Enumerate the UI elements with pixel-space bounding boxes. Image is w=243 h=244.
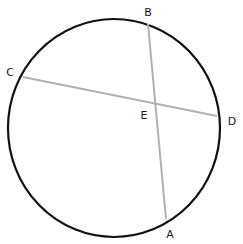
chord-ba	[148, 24, 166, 219]
circle	[8, 19, 220, 237]
point-label-c: C	[6, 66, 14, 79]
point-label-b: B	[144, 6, 152, 19]
circle-chords-diagram: B C E D A	[0, 0, 243, 244]
point-label-e: E	[141, 109, 148, 122]
point-label-a: A	[166, 228, 174, 241]
point-label-d: D	[228, 115, 236, 128]
chord-cd	[23, 77, 217, 116]
